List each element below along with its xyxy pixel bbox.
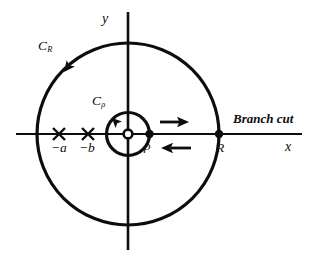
pole-label-minus-b: −b <box>79 141 95 155</box>
upper-path-arrow <box>160 117 189 127</box>
y-axis-label: y <box>102 12 108 26</box>
inner-contour-label: Cρ <box>92 94 105 109</box>
lower-path-arrow <box>161 143 191 153</box>
inner-contour-label-base: C <box>92 93 101 108</box>
outer-contour-label: CR <box>38 39 52 54</box>
outer-contour-label-sub: R <box>47 45 52 54</box>
R-point-marker <box>215 130 223 138</box>
rho-point-marker <box>145 130 153 138</box>
origin-marker <box>124 130 133 139</box>
x-axis-label: x <box>285 140 291 154</box>
outer-contour-label-base: C <box>38 38 47 53</box>
x-axis-label-text: x <box>285 139 291 154</box>
figure-canvas: y x CR Cρ −a −b ρ R Branch cut <box>0 0 312 266</box>
rho-label: ρ <box>144 139 150 153</box>
R-label: R <box>216 141 224 155</box>
inner-contour-label-sub: ρ <box>101 100 105 109</box>
pole-label-minus-a: −a <box>51 141 67 155</box>
branch-cut-label: Branch cut <box>233 112 293 125</box>
